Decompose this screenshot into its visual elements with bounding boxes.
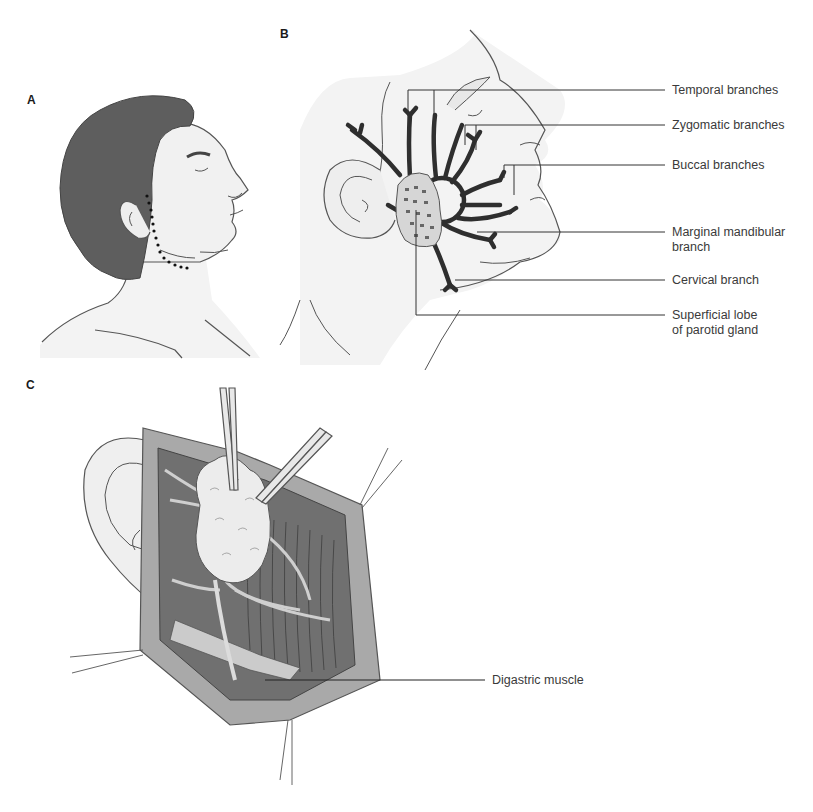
label-buccal-branches: Buccal branches <box>672 158 764 173</box>
label-temporal-branches: Temporal branches <box>672 83 778 98</box>
label-digastric-muscle: Digastric muscle <box>492 673 584 688</box>
panel-c-surgical-field-illustration <box>70 388 485 785</box>
panel-label-b: B <box>280 27 289 41</box>
label-zygomatic-branches: Zygomatic branches <box>672 118 785 133</box>
panel-label-a: A <box>27 93 36 107</box>
label-marginal-line2: branch <box>672 240 812 255</box>
label-cervical-branch: Cervical branch <box>672 273 759 288</box>
label-marginal-line1: Marginal mandibular <box>672 225 812 240</box>
panel-a-head-illustration <box>40 96 260 358</box>
label-parotid-line1: Superficial lobe <box>672 308 812 323</box>
label-marginal-mandibular-branch: Marginal mandibular branch <box>672 225 812 255</box>
label-superficial-lobe-parotid: Superficial lobe of parotid gland <box>672 308 812 338</box>
panel-b-facial-nerve-illustration <box>280 30 665 370</box>
label-parotid-line2: of parotid gland <box>672 323 812 338</box>
panel-label-c: C <box>26 378 35 392</box>
